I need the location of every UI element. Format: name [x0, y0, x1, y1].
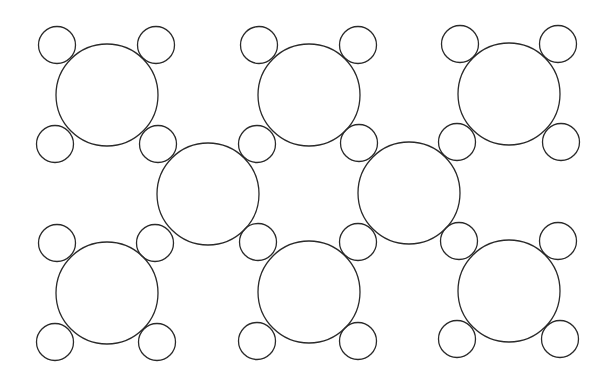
small-circle [39, 27, 76, 64]
small-circle [138, 27, 175, 64]
small-circle [137, 225, 174, 262]
small-circle [340, 224, 377, 261]
small-circle [439, 321, 476, 358]
small-circle [241, 27, 278, 64]
small-circle [239, 323, 276, 360]
small-circle [39, 225, 76, 262]
large-circle [458, 240, 560, 342]
small-circle [239, 126, 276, 163]
small-circle [540, 26, 577, 63]
small-circle [37, 324, 74, 361]
small-circle [140, 126, 177, 163]
small-circle [442, 26, 479, 63]
small-circle [341, 125, 378, 162]
small-circle [441, 223, 478, 260]
small-circle [37, 126, 74, 163]
small-circle [240, 224, 277, 261]
small-circle [543, 124, 580, 161]
small-circle [540, 223, 577, 260]
small-circle [340, 323, 377, 360]
large-circle [458, 43, 560, 145]
small-circle [542, 321, 579, 358]
small-circle [139, 324, 176, 361]
circle-pattern-diagram [0, 0, 607, 383]
large-circle [56, 44, 158, 146]
large-circles-group [56, 43, 560, 344]
small-circle [340, 27, 377, 64]
small-circle [439, 124, 476, 161]
